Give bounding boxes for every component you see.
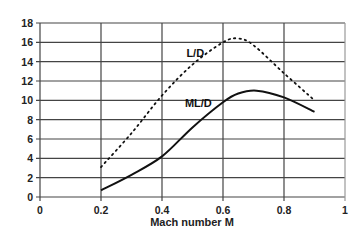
line-chart: 024681012141618 00.20.40.60.81 L/DML/D M…	[0, 0, 362, 242]
x-axis-ticks: 00.20.40.60.81	[37, 204, 348, 216]
x-tick-label: 0.6	[216, 204, 231, 216]
y-tick-label: 8	[27, 114, 33, 126]
x-tick-label: 0.8	[277, 204, 292, 216]
x-tick-label: 0.4	[155, 204, 170, 216]
y-tick-label: 12	[21, 75, 33, 87]
y-tick-label: 4	[27, 152, 33, 164]
series-lines	[101, 38, 315, 190]
x-tick-label: 0.2	[94, 204, 109, 216]
y-tick-label: 18	[21, 17, 33, 29]
series-label: L/D	[186, 47, 204, 59]
y-tick-label: 6	[27, 133, 33, 145]
y-tick-label: 10	[21, 94, 33, 106]
y-tick-label: 2	[27, 172, 33, 184]
y-axis-ticks: 024681012141618	[21, 17, 33, 203]
y-tick-label: 16	[21, 36, 33, 48]
series-label: ML/D	[185, 97, 212, 109]
y-tick-label: 14	[21, 56, 33, 68]
x-tick-label: 0	[37, 204, 43, 216]
x-tick-label: 1	[342, 204, 348, 216]
y-tick-label: 0	[27, 191, 33, 203]
x-axis-title: Mach number M	[150, 216, 234, 228]
series-labels: L/DML/D	[185, 47, 212, 109]
